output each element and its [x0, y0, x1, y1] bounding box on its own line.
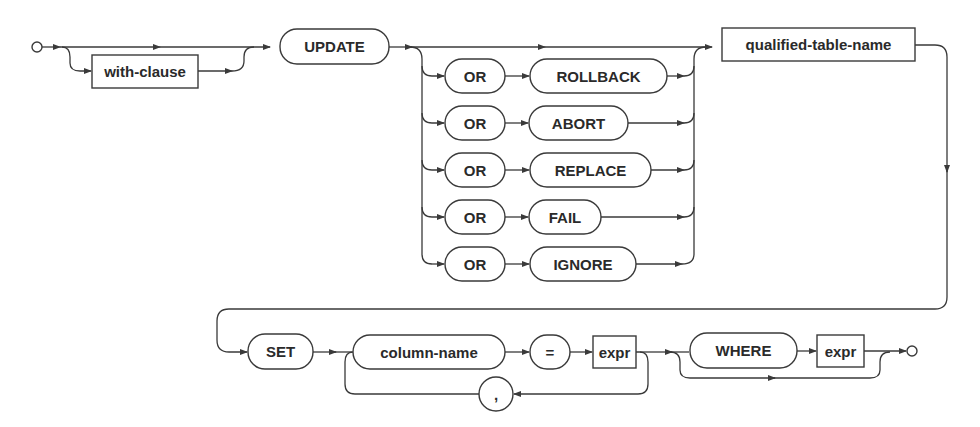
where-keyword[interactable]: WHERE	[690, 333, 797, 368]
comma-token[interactable]: ,	[479, 377, 513, 411]
replace-keyword[interactable]: REPLACE	[530, 153, 651, 187]
expr-node[interactable]: expr	[593, 336, 636, 368]
or-keyword[interactable]: OR	[445, 59, 505, 93]
svg-text:OR: OR	[464, 115, 487, 132]
column-name-node[interactable]: column-name	[353, 335, 505, 369]
split-vertical	[410, 47, 432, 264]
or-replace-option: OR REPLACE	[422, 153, 694, 187]
expr-label: expr	[599, 344, 631, 361]
or-keyword[interactable]: OR	[445, 200, 505, 234]
fail-keyword[interactable]: FAIL	[529, 200, 601, 234]
svg-text:OR: OR	[464, 162, 487, 179]
where-expr-node[interactable]: expr	[817, 335, 864, 367]
set-keyword[interactable]: SET	[248, 334, 313, 369]
abort-keyword[interactable]: ABORT	[529, 106, 628, 140]
qualified-table-name-label: qualified-table-name	[746, 36, 892, 53]
start-terminal-icon	[32, 42, 42, 52]
branch-path	[62, 47, 91, 71]
or-rollback-option: OR ROLLBACK	[422, 59, 694, 93]
or-abort-option: OR ABORT	[422, 106, 694, 140]
svg-text:OR: OR	[464, 256, 487, 273]
update-keyword[interactable]: UPDATE	[280, 29, 389, 64]
or-keyword[interactable]: OR	[445, 153, 505, 187]
svg-text:ROLLBACK: ROLLBACK	[556, 68, 640, 85]
svg-text:FAIL: FAIL	[549, 209, 582, 226]
column-name-label: column-name	[380, 344, 478, 361]
equals-label: =	[546, 344, 555, 361]
where-label: WHERE	[716, 342, 772, 359]
set-label: SET	[266, 343, 295, 360]
equals-token[interactable]: =	[530, 335, 570, 369]
merge-vertical	[682, 47, 706, 264]
qualified-table-name-node[interactable]: qualified-table-name	[722, 28, 915, 61]
ignore-keyword[interactable]: IGNORE	[530, 247, 636, 281]
or-fail-option: OR FAIL	[422, 200, 694, 234]
comma-label: ,	[494, 386, 498, 403]
end-terminal-icon	[907, 346, 917, 356]
svg-text:OR: OR	[464, 68, 487, 85]
update-syntax-diagram: with-clause UPDATE OR ROLLBACK OR	[0, 0, 980, 427]
or-keyword[interactable]: OR	[445, 106, 505, 140]
merge-path	[232, 47, 254, 71]
svg-text:ABORT: ABORT	[552, 115, 605, 132]
with-clause-label: with-clause	[103, 63, 186, 80]
update-label: UPDATE	[304, 38, 365, 55]
rollback-keyword[interactable]: ROLLBACK	[530, 59, 667, 93]
or-keyword[interactable]: OR	[445, 247, 505, 281]
svg-text:OR: OR	[464, 209, 487, 226]
with-clause-node[interactable]: with-clause	[92, 55, 198, 88]
where-expr-label: expr	[825, 343, 857, 360]
or-ignore-option: OR IGNORE	[432, 247, 682, 281]
svg-text:REPLACE: REPLACE	[555, 162, 627, 179]
svg-text:IGNORE: IGNORE	[553, 256, 612, 273]
wrap-path	[915, 45, 947, 172]
